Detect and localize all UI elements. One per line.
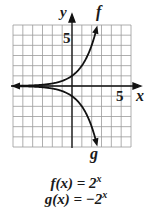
equation-g-text: g(x) = −2 <box>45 191 103 207</box>
curve-g <box>13 86 96 141</box>
curve-f-arrow-icon <box>92 26 98 35</box>
left-arrow-icon <box>11 83 20 90</box>
equation-g-exponent: x <box>102 189 107 200</box>
equation-g: g(x) = −2x <box>0 187 152 207</box>
curve-g-label: g <box>90 145 98 163</box>
curve-f <box>13 30 96 85</box>
function-graph <box>0 0 152 160</box>
y-tick-label: 5 <box>63 30 71 47</box>
equation-f-exponent: x <box>97 173 102 184</box>
y-axis-label: y <box>60 4 67 21</box>
x-tick-label: 5 <box>116 88 124 105</box>
x-axis-label: x <box>136 87 144 105</box>
curve-f-label: f <box>96 3 101 21</box>
y-axis-arrow-icon <box>69 14 75 22</box>
